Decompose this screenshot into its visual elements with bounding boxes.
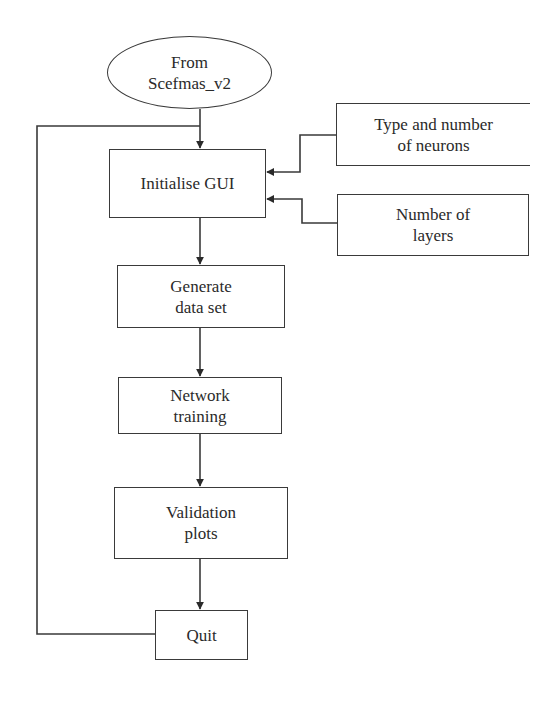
validation-node: Validation plots <box>114 487 288 559</box>
edge-neurons-to-init <box>267 135 336 172</box>
validation-label: Validation plots <box>166 502 236 544</box>
quit-label: Quit <box>186 625 216 646</box>
quit-node: Quit <box>155 610 248 660</box>
neurons-input-label: Type and number of neurons <box>374 114 493 156</box>
init-gui-label: Initialise GUI <box>141 173 235 194</box>
edge-layers-to-init <box>267 199 337 223</box>
start-node: From Scefmas_v2 <box>107 36 272 109</box>
flowchart-canvas: From Scefmas_v2 Initialise GUI Type and … <box>0 0 559 702</box>
generate-node: Generate data set <box>117 265 285 328</box>
training-label: Network training <box>170 385 229 427</box>
neurons-input-node: Type and number of neurons <box>336 103 530 166</box>
init-gui-node: Initialise GUI <box>109 149 266 218</box>
start-node-label: From Scefmas_v2 <box>148 52 231 94</box>
layers-input-node: Number of layers <box>337 194 529 256</box>
training-node: Network training <box>118 377 282 434</box>
layers-input-label: Number of layers <box>396 204 470 246</box>
generate-label: Generate data set <box>170 276 231 318</box>
